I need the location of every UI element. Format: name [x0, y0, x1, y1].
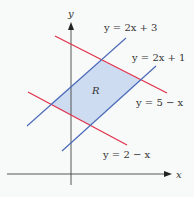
y-axis-arrow-icon: [68, 22, 74, 30]
label-upper-blue: y = 2x + 3: [103, 22, 158, 33]
x-axis-arrow-icon: [164, 171, 172, 177]
region-label: R: [91, 85, 100, 96]
label-lower-red: y = 2 − x: [102, 149, 150, 160]
label-upper-red: y = 5 − x: [135, 97, 183, 108]
y-axis-label: y: [67, 8, 74, 19]
label-lower-blue: y = 2x + 1: [131, 52, 186, 63]
region-diagram: y x R y = 2x + 3 y = 2x + 1 y = 5 − x y …: [0, 0, 194, 197]
x-axis-label: x: [176, 169, 182, 180]
